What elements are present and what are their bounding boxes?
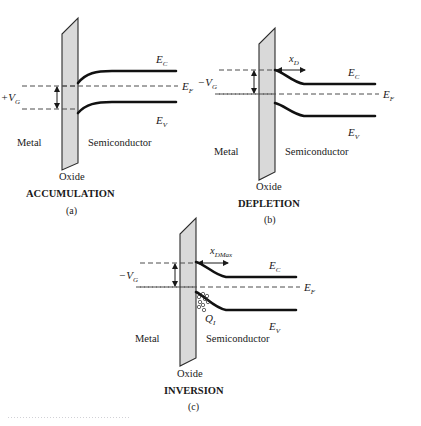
gate-bias-label-b: −VG	[198, 76, 217, 91]
band-label-ev-c: EV	[268, 320, 281, 335]
band-label-ef-c: EF	[303, 281, 316, 296]
panel-accumulation: +VG EC EF EV Metal Semiconductor Oxide	[1, 18, 194, 217]
valence-band-a	[78, 102, 176, 113]
charge-label-c: QI	[205, 312, 216, 327]
band-label-ef-a: EF	[181, 80, 194, 95]
region-label-semiconductor-a: Semiconductor	[88, 137, 152, 148]
caption-c: (c)	[188, 401, 199, 413]
band-label-ef-b: EF	[382, 88, 395, 103]
panel-inversion: −VG xDMax QI	[119, 218, 316, 413]
region-label-semiconductor-b: Semiconductor	[285, 146, 349, 157]
layer-label-oxide-c: Oxide	[177, 368, 203, 379]
layer-label-oxide-b: Oxide	[256, 181, 282, 192]
valence-band-b	[275, 103, 375, 116]
figure-canvas: +VG EC EF EV Metal Semiconductor Oxide	[0, 0, 421, 426]
valence-band-c	[196, 292, 296, 310]
oxide-slab-c	[180, 218, 196, 366]
caption-a: (a)	[66, 205, 77, 217]
band-label-ec-b: EC	[347, 66, 360, 81]
oxide-slab-a	[62, 18, 78, 170]
region-label-metal-a: Metal	[17, 137, 42, 148]
band-label-ev-b: EV	[347, 126, 360, 141]
band-label-ec-c: EC	[268, 259, 281, 274]
mos-band-diagram-figure: +VG EC EF EV Metal Semiconductor Oxide	[0, 0, 421, 426]
width-marker-label-c: xDMax	[209, 245, 233, 259]
region-label-metal-b: Metal	[214, 146, 239, 157]
state-label-c: INVERSION	[164, 385, 224, 396]
band-label-ec-a: EC	[155, 53, 168, 68]
layer-label-oxide-a: Oxide	[59, 171, 85, 182]
scan-artifact-line	[8, 417, 130, 418]
conduction-band-c	[196, 262, 296, 277]
conduction-band-b	[275, 70, 375, 84]
state-label-a: ACCUMULATION	[26, 188, 115, 199]
oxide-slab-b	[259, 28, 275, 180]
region-label-metal-c: Metal	[135, 333, 160, 344]
region-label-semiconductor-c: Semiconductor	[206, 333, 270, 344]
gate-bias-label-a: +VG	[1, 91, 20, 106]
conduction-band-a	[78, 71, 176, 83]
panel-depletion: −VG xD EC EF EV Metal Semiconduc	[198, 28, 395, 226]
width-marker-label-b: xD	[288, 53, 299, 67]
caption-b: (b)	[264, 214, 276, 226]
state-label-b: DEPLETION	[238, 198, 300, 209]
band-label-ev-a: EV	[155, 114, 168, 129]
gate-bias-label-c: −VG	[119, 269, 138, 284]
